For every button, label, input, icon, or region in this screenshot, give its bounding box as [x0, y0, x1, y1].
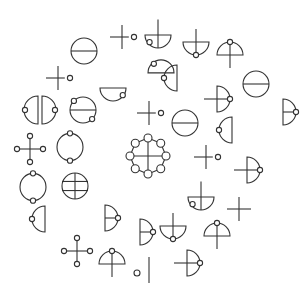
right-half-cross-dot-glyph	[174, 250, 203, 276]
plus-dots-glyph	[61, 235, 92, 266]
plus-dots-glyph	[14, 133, 45, 164]
ring-two-dots-glyph	[57, 131, 83, 164]
plus-glyph	[227, 197, 251, 221]
cross-with-dot-glyph	[137, 101, 164, 125]
cross-with-dot-glyph	[194, 145, 221, 169]
ring-two-dots-glyph	[20, 171, 46, 204]
bowl-loop-glyph	[100, 88, 126, 101]
left-half-dot-glyph	[29, 206, 45, 232]
cross-with-dot-glyph	[110, 25, 137, 49]
dome-cross-dot-glyph	[217, 39, 243, 68]
circle-bar-dots-glyph	[70, 97, 96, 123]
center-wheel-glyph	[126, 134, 170, 178]
glyph-canvas	[0, 0, 308, 301]
circle-grid-glyph	[62, 173, 88, 199]
dome-cross-dot-glyph	[99, 248, 125, 277]
circle-bar-glyph	[71, 38, 97, 64]
cross-with-dot-glyph	[46, 66, 73, 90]
right-half-bar-dot-glyph	[283, 99, 299, 125]
glyph-field	[0, 0, 308, 301]
circle-bar-glyph	[172, 110, 198, 136]
left-half-dot-glyph	[216, 117, 232, 143]
circle-bar-glyph	[243, 71, 269, 97]
half-circle-cross-glyph	[145, 19, 171, 48]
bowl-cross-dot-glyph	[160, 213, 186, 242]
right-half-cross-dot-glyph	[234, 157, 263, 183]
bowl-cross-dot-glyph	[183, 29, 209, 58]
dome-cross-dot-glyph	[204, 220, 230, 249]
bowl-cross-loop-glyph	[188, 181, 214, 210]
right-half-bar-dot-glyph	[105, 205, 121, 231]
split-circle-glyph	[22, 96, 57, 124]
small-circle-glyph	[134, 270, 140, 276]
right-half-cross-dot-glyph	[204, 86, 233, 112]
right-half-bar-dot-glyph	[140, 219, 156, 245]
left-half-dot-glyph	[161, 65, 177, 91]
